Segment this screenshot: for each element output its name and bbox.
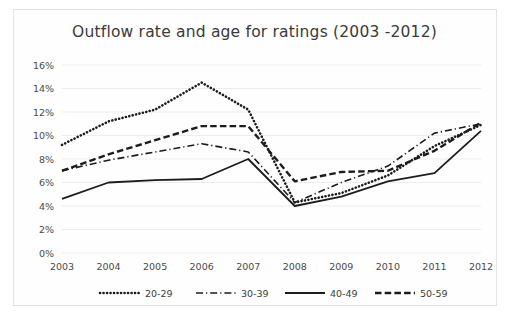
y-axis-tick-labels: 0%2%4%6%8%10%12%14%16% (33, 60, 54, 259)
y-axis-tick-label: 2% (39, 224, 54, 235)
x-axis-tick-labels: 2003200420052006200720082009201020112012 (50, 261, 493, 272)
x-axis-tick-label: 2011 (422, 261, 446, 272)
x-axis-tick-label: 2012 (469, 261, 493, 272)
y-axis-tick-label: 12% (33, 107, 54, 118)
y-axis-tick-label: 14% (33, 83, 54, 94)
legend-label-30-39: 30-39 (241, 288, 269, 299)
x-axis-tick-label: 2004 (96, 261, 120, 272)
y-axis-tick-label: 16% (33, 60, 54, 71)
legend-label-20-29: 20-29 (145, 288, 173, 299)
x-axis-tick-label: 2006 (190, 261, 214, 272)
data-series-group (62, 83, 481, 206)
series-line-20-29 (62, 83, 481, 203)
series-line-50-59 (62, 123, 481, 182)
legend-label-40-49: 40-49 (330, 288, 358, 299)
x-axis-tick-label: 2003 (50, 261, 74, 272)
legend-label-50-59: 50-59 (420, 288, 448, 299)
line-chart-plot: 0%2%4%6%8%10%12%14%16% 20032004200520062… (0, 0, 509, 317)
x-axis-tick-label: 2010 (376, 261, 400, 272)
x-axis-tick-label: 2008 (283, 261, 307, 272)
y-axis-tick-label: 8% (39, 154, 54, 165)
x-axis-tick-label: 2005 (143, 261, 167, 272)
chart-figure: Outflow rate and age for ratings (2003 -… (0, 0, 509, 317)
y-axis-tick-label: 0% (39, 248, 54, 259)
chart-legend: 20-2930-3940-4950-59 (100, 288, 448, 299)
y-axis-tick-label: 4% (39, 201, 54, 212)
series-line-40-49 (62, 131, 481, 206)
x-axis-tick-label: 2007 (236, 261, 260, 272)
x-axis-tick-label: 2009 (329, 261, 353, 272)
y-axis-tick-label: 10% (33, 130, 54, 141)
y-axis-tick-label: 6% (39, 177, 54, 188)
